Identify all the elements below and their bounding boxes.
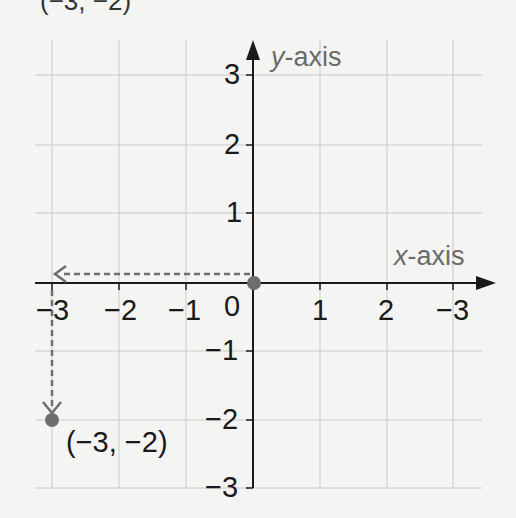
y-tick-label: −1 [205, 336, 238, 365]
x-axis-arrow-icon [476, 276, 496, 290]
y-tick-label: −2 [205, 405, 238, 434]
y-axis-variable: y [271, 42, 285, 72]
y-axis [246, 40, 260, 488]
x-tick-label: −1 [168, 296, 201, 325]
origin-point [247, 276, 261, 290]
x-tick-label: −3 [436, 296, 469, 325]
y-tick-label: −3 [205, 473, 238, 502]
x-axis-suffix: -axis [408, 241, 465, 271]
y-tick-label: 2 [224, 130, 240, 159]
x-tick-label: 2 [378, 296, 394, 325]
point-label: (−3, −2) [66, 428, 168, 457]
x-tick-label: 1 [312, 296, 328, 325]
x-tick-label: −2 [104, 296, 137, 325]
y-axis-suffix: -axis [285, 42, 342, 72]
x-axis-title: x-axis [394, 243, 465, 270]
x-axis-variable: x [394, 241, 408, 271]
partial-title: (−3, −2) [40, 0, 131, 17]
target-point [45, 413, 59, 427]
x-tick-label: −3 [36, 296, 69, 325]
dashed-arrow-horizontal [55, 266, 250, 282]
y-axis-arrow-icon [246, 40, 260, 60]
y-axis-title: y-axis [271, 44, 342, 71]
coordinate-plane: (−3, −2) −3 −2 −1 0 1 2 −3 3 2 1 −1 −2 −… [0, 0, 516, 518]
y-tick-label: 3 [224, 60, 240, 89]
y-tick-label: 1 [226, 198, 242, 227]
x-axis [35, 276, 496, 290]
x-tick-label: 0 [224, 292, 240, 321]
